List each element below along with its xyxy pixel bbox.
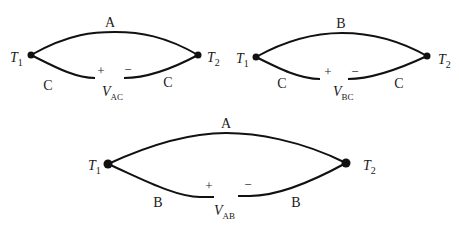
voltage-label: VAB [214,203,235,221]
wire-label-bottom-right: C [163,75,172,90]
junction-dot-t2 [195,52,202,59]
junction-dot-t1 [28,52,35,59]
circuit-ab: A T1 T2 B B + − VAB [88,116,376,221]
voltage-label: VBC [333,84,354,102]
junction-label-t2: T2 [363,158,376,176]
wire-bottom-right-c [348,56,427,79]
thermocouple-diagram: A T1 T2 C C + − VAC B T1 T2 C C + − VBC … [0,0,459,229]
junction-label-t1: T1 [10,50,23,68]
polarity-minus: − [351,64,358,79]
polarity-plus: + [97,63,104,78]
wire-top-b [256,33,427,57]
junction-dot-t2 [424,53,431,60]
polarity-minus: − [124,62,131,77]
wire-label-bottom-left: B [153,195,162,210]
wire-bottom-left-c [31,55,95,78]
wire-top-a [108,133,346,164]
junction-label-t1: T1 [236,51,249,69]
circuit-bc: B T1 T2 C C + − VBC [236,16,451,102]
junction-dot-t1 [104,160,113,169]
wire-label-bottom-left: C [277,76,286,91]
wire-label-top: A [105,15,116,30]
wire-label-bottom-left: C [43,78,52,93]
wire-top-a [31,32,198,55]
wire-bottom-left-b [108,164,214,197]
junction-dot-t2 [342,159,351,168]
junction-label-t1: T1 [88,158,101,176]
junction-dot-t1 [253,54,260,61]
circuit-ac: A T1 T2 C C + − VAC [10,15,220,102]
wire-label-bottom-right: C [394,76,403,91]
wire-bottom-left-c [256,57,320,79]
wire-bottom-right-b [238,163,346,196]
wire-bottom-right-c [124,55,198,78]
junction-label-t2: T2 [207,50,220,68]
wire-label-bottom-right: B [291,195,300,210]
polarity-plus: + [205,178,212,193]
voltage-label: VAC [102,84,123,102]
junction-label-t2: T2 [438,52,451,70]
wire-label-top: A [221,116,232,131]
polarity-minus: − [244,177,251,192]
polarity-plus: + [324,64,331,79]
wire-label-top: B [336,16,345,31]
